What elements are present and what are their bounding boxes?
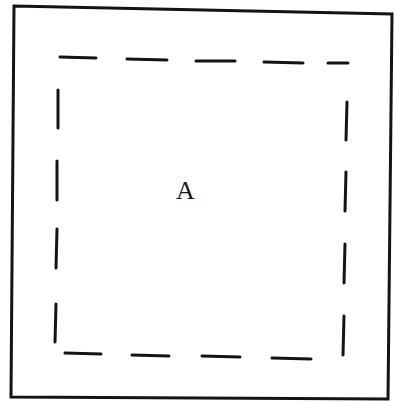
top-dash — [60, 57, 96, 58]
diagram-svg — [0, 0, 394, 402]
right-dash — [343, 316, 344, 355]
bottom-dash — [272, 358, 311, 359]
right-dash — [344, 244, 345, 283]
top-dash — [264, 62, 303, 63]
left-dash — [56, 229, 57, 268]
bottom-dash — [202, 356, 240, 357]
left-dash — [55, 304, 56, 342]
right-dash — [346, 102, 347, 140]
region-label-a: A — [176, 176, 195, 206]
inner-dashed-boundary — [55, 57, 348, 359]
outer-border — [11, 6, 392, 399]
top-dash — [127, 59, 167, 60]
bottom-dash — [132, 355, 169, 356]
diagram-canvas: A — [0, 0, 394, 402]
right-dash — [345, 172, 346, 211]
bottom-dash — [65, 353, 101, 354]
